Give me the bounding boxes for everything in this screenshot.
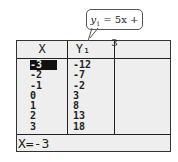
y1-column: -12 -7 -2 3 8 13 18: [73, 60, 91, 132]
calculator-table-screen: X Y₁ -3 -2 -1 0 1 2 3 -12 -7 -2 3 8 13 1…: [16, 40, 171, 152]
callout-pointer: [0, 0, 178, 50]
table-cell-x[interactable]: 3: [30, 122, 57, 132]
table-cell-y1[interactable]: 18: [73, 122, 91, 132]
status-line: X=-3: [17, 134, 171, 152]
x-column: -3 -2 -1 0 1 2 3: [30, 60, 57, 132]
